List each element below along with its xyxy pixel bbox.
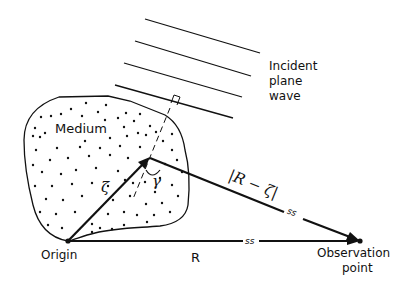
- break-mark-lower: ss: [245, 234, 254, 249]
- observation-label-line1: Observation: [317, 246, 390, 261]
- r-label: R: [191, 250, 200, 265]
- incident-wave-label-line3: wave: [269, 89, 301, 104]
- zeta-label: ζ: [101, 180, 109, 195]
- observation-label-line2: point: [342, 261, 373, 276]
- incident-wave-label-line2: plane: [269, 74, 302, 89]
- zeta-vector: [68, 163, 144, 241]
- origin-point: [65, 238, 70, 243]
- r-minus-zeta-vector-part2: [303, 219, 350, 237]
- right-angle-mark: [171, 95, 180, 105]
- origin-label: Origin: [41, 248, 77, 263]
- incident-wave-label-line1: Incident: [269, 59, 317, 74]
- gamma-label: γ: [152, 174, 161, 189]
- scattering-diagram: [0, 0, 415, 287]
- medium-label: Medium: [55, 121, 107, 136]
- observation-point: [357, 238, 362, 243]
- medium-boundary: [24, 96, 189, 241]
